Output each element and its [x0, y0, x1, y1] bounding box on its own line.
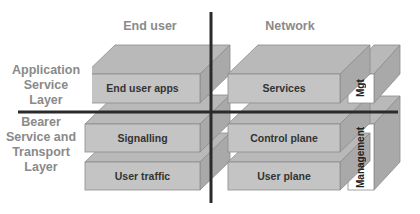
label-user-plane: User plane — [228, 170, 340, 182]
label-end-user-apps: End user apps — [85, 82, 200, 94]
label-signalling: Signalling — [85, 132, 200, 144]
column-header-end-user: End user — [100, 19, 200, 33]
label-management: Management — [348, 124, 374, 190]
label-mgt: Mgt — [348, 74, 374, 103]
row-header-bearer-service-transport-layer: Bearer Service and Transport Layer — [0, 115, 82, 175]
label-services: Services — [228, 82, 340, 94]
label-user-traffic: User traffic — [85, 170, 200, 182]
row-header-application-service-layer-text: Application Service Layer — [0, 63, 92, 108]
label-control-plane: Control plane — [228, 132, 340, 144]
column-header-network: Network — [240, 19, 340, 33]
box-end-user-apps — [85, 45, 230, 103]
